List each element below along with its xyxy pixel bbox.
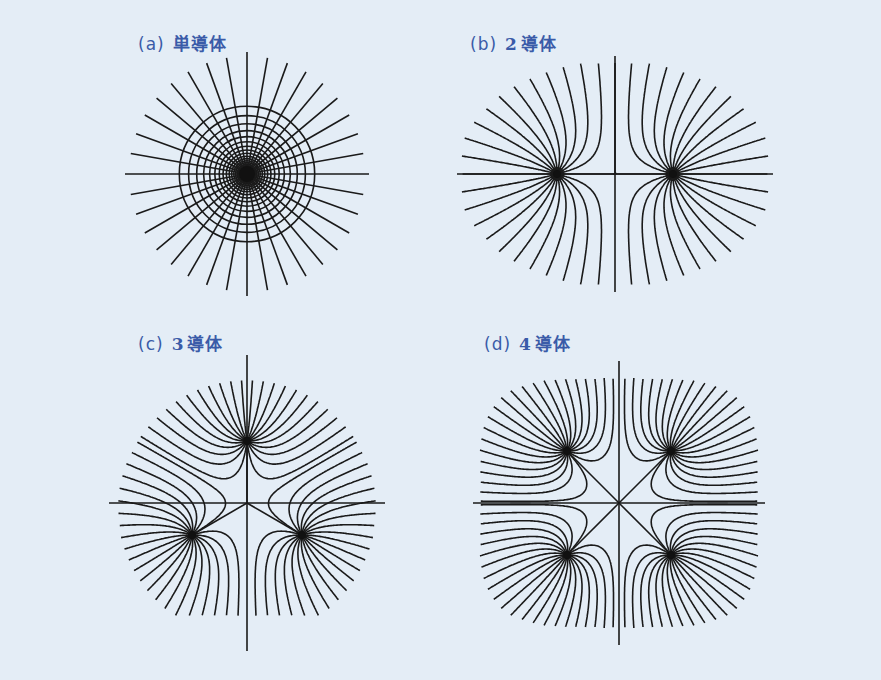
- field-line: [567, 503, 619, 555]
- field-line: [649, 556, 669, 627]
- field-line: [511, 391, 566, 450]
- field-line: [672, 557, 727, 616]
- conductor-icon: [563, 551, 571, 559]
- four-conductor-diagram: [0, 0, 881, 680]
- conductor-field-figure: (a)単導体 (b)2導体 (c)3導体 (d)4導体: [0, 0, 881, 680]
- conductor-icon: [563, 447, 571, 455]
- field-line: [567, 451, 619, 503]
- field-line: [569, 556, 589, 627]
- field-line: [511, 557, 566, 616]
- field-line: [569, 379, 589, 450]
- conductor-icon: [667, 447, 675, 455]
- field-line: [672, 391, 727, 450]
- field-line: [619, 451, 671, 503]
- field-line: [619, 503, 671, 555]
- field-line: [649, 379, 669, 450]
- conductor-icon: [667, 551, 675, 559]
